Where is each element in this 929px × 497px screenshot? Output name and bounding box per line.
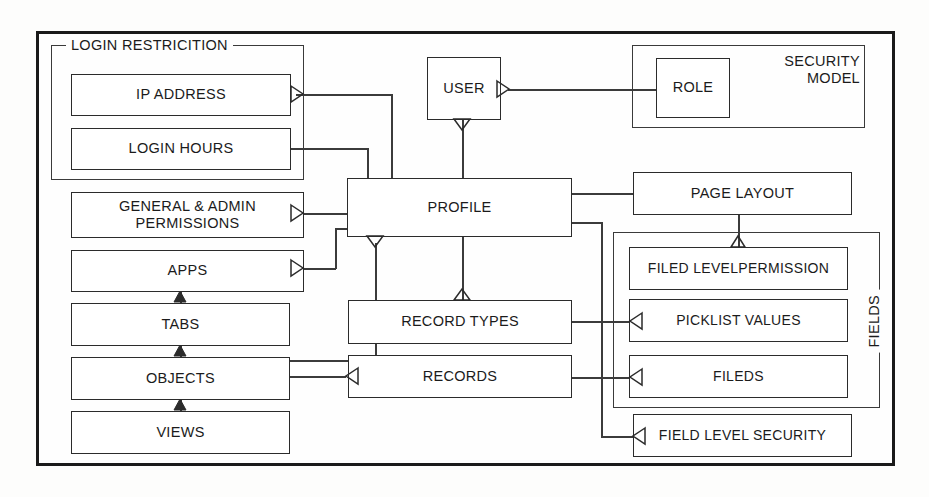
diagram-canvas: LOGIN RESTRICITION IP ADDRESS LOGIN HOUR… [0,0,929,497]
connector-login-hours-horizontal [290,148,368,150]
group-login-restriction-label: LOGIN RESTRICITION [66,37,233,53]
security-model-label-line1: SECURITY [784,53,860,69]
entity-fields[interactable]: FILEDS [629,355,848,398]
connector-profile-record-types [462,237,464,300]
entity-page-layout[interactable]: PAGE LAYOUT [633,172,852,215]
entity-user[interactable]: USER [427,57,501,120]
entity-ip-address[interactable]: IP ADDRESS [71,74,291,116]
connector-apps-vertical [335,228,337,269]
connector-page-layout-flp [738,215,740,247]
group-fields-label: FIELDS [866,290,882,353]
connector-record-types-picklist [572,321,630,323]
entity-picklist-values[interactable]: PICKLIST VALUES [629,299,848,342]
entity-role[interactable]: ROLE [656,58,730,118]
entity-field-level-security[interactable]: FIELD LEVEL SECURITY [633,414,852,457]
connector-objects-tabs [180,345,182,357]
group-security-model-label: SECURITY MODEL [760,53,860,88]
entity-login-hours[interactable]: LOGIN HOURS [71,128,291,170]
connector-general-admin-horizontal [304,213,348,215]
entity-general-admin-permissions[interactable]: GENERAL & ADMIN PERMISSIONS [71,192,304,238]
entity-profile[interactable]: PROFILE [347,178,572,237]
entity-record-types[interactable]: RECORD TYPES [348,300,572,344]
entity-views[interactable]: VIEWS [71,411,290,454]
connector-apps-horizontal [304,268,336,270]
connector-profile-right-stub [572,222,602,224]
security-model-label-line2: MODEL [807,70,860,86]
connector-views-objects [180,399,182,411]
connector-ip-address-horizontal [296,94,392,96]
connector-user-profile [462,120,464,179]
connector-records-fields [572,377,630,379]
connector-spine-field-level-security [601,436,633,438]
connector-ip-address-vertical [391,94,393,179]
entity-records[interactable]: RECORDS [348,355,572,398]
connector-user-role [508,89,656,91]
connector-profile-page-layout [572,193,633,195]
connector-objects-records [290,376,346,378]
entity-tabs[interactable]: TABS [71,303,290,346]
connector-tabs-apps [180,291,182,303]
entity-objects[interactable]: OBJECTS [71,357,290,400]
entity-field-level-permission[interactable]: FILED LEVELPERMISSION [629,247,848,290]
connector-profile-right-spine [601,222,603,437]
connector-login-hours-vertical [367,148,369,179]
entity-apps[interactable]: APPS [71,250,304,292]
